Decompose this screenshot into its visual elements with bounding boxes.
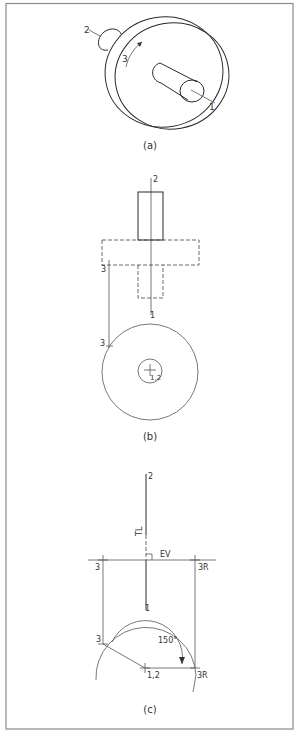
caption-b: (b)	[143, 431, 157, 442]
view-c-revolution: 2 TL EV 3 3R 1 3 150° 1,2 3R (c)	[88, 472, 216, 715]
label-b-2: 2	[153, 175, 158, 184]
label-c-center: 1,2	[147, 671, 160, 680]
view-b-orthographic: 2 1 3 3 1,2 (b)	[100, 175, 199, 442]
label-c-1: 1	[145, 604, 150, 613]
caption-c: (c)	[143, 704, 156, 715]
label-c-angle: 150°	[158, 636, 177, 645]
label-c-2: 2	[148, 472, 153, 481]
label-c-3-arc: 3	[96, 635, 101, 644]
label-c-3r-top: 3R	[198, 563, 209, 572]
caption-a: (a)	[143, 140, 157, 151]
label-a-3: 3	[122, 54, 128, 64]
label-c-3-left: 3	[95, 563, 100, 572]
label-b-center: 1,2	[150, 374, 161, 382]
technical-drawing-revolution: 2 3 1 (a) 2 1 3 3 1,2 (b)	[0, 0, 300, 738]
label-c-tl: TL	[135, 526, 144, 537]
label-a-1: 1	[209, 102, 215, 112]
label-c-3r-arc: 3R	[197, 671, 208, 680]
label-b-3-end: 3	[100, 339, 105, 348]
label-b-1: 1	[150, 311, 155, 320]
figure-border	[6, 4, 293, 730]
label-a-2: 2	[84, 25, 90, 35]
view-a-pictorial: 2 3 1 (a)	[84, 8, 237, 151]
label-b-3-front: 3	[101, 265, 106, 274]
label-c-ev: EV	[160, 550, 171, 559]
